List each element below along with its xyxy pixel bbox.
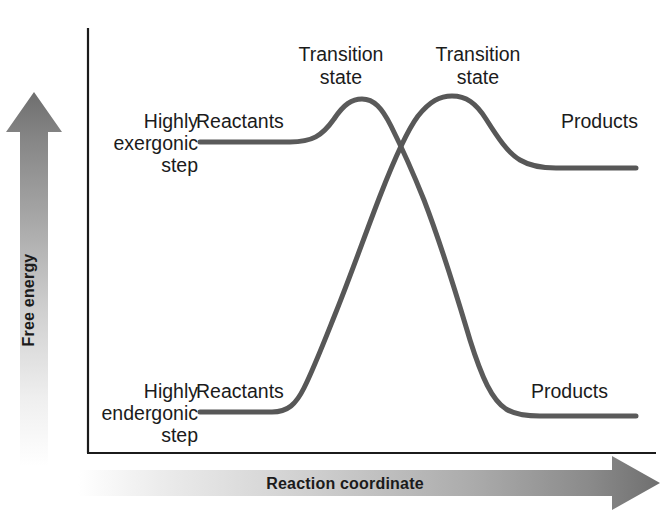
endergonic-step-label-line1: Highly	[144, 380, 198, 402]
products-top-label: Products	[561, 110, 638, 132]
exergonic-step-label-line1: Highly	[144, 110, 198, 132]
exergonic-step-curve	[200, 99, 636, 416]
exergonic-step-label-line2: exergonic	[113, 132, 198, 154]
endergonic-step-label: Highly endergonic step	[102, 380, 199, 446]
reactants-bottom-label: Reactants	[196, 380, 284, 402]
transition-state-2-label-line1: Transition	[436, 43, 521, 65]
transition-state-1-label-line2: state	[320, 66, 362, 88]
diagram-canvas: Reactants Products Reactants Products Tr…	[0, 0, 667, 512]
transition-state-2-label-line2: state	[457, 66, 499, 88]
exergonic-step-label: Highly exergonic step	[113, 110, 198, 176]
reactants-top-label: Reactants	[196, 110, 284, 132]
reaction-energy-diagram-figure: Reactants Products Reactants Products Tr…	[0, 0, 667, 512]
y-axis-title: Free energy	[20, 254, 37, 347]
transition-state-1-label-line1: Transition	[299, 43, 384, 65]
products-bottom-label: Products	[531, 380, 608, 402]
exergonic-step-label-line3: step	[161, 154, 198, 176]
x-axis-title: Reaction coordinate	[266, 475, 424, 492]
endergonic-step-label-line2: endergonic	[102, 402, 199, 424]
endergonic-step-label-line3: step	[161, 424, 198, 446]
